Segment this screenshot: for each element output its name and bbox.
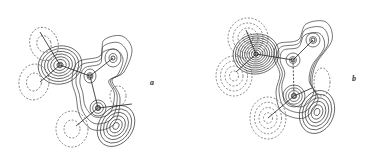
bond-line <box>40 32 60 65</box>
negative-contour <box>56 111 88 147</box>
panel-label-b: b <box>352 74 356 83</box>
bond-line <box>293 40 313 60</box>
negative-contour <box>314 68 330 96</box>
negative-contour <box>25 23 63 65</box>
negative-contour <box>230 71 239 81</box>
panel-label-a: a <box>150 78 154 87</box>
positive-contour <box>313 108 321 117</box>
panel-b-contour-map <box>216 18 340 139</box>
positive-contour <box>103 112 130 140</box>
positive-contour <box>301 94 332 129</box>
contour-figure <box>0 0 372 165</box>
negative-contour <box>64 120 80 138</box>
panel-a-contour-map <box>16 23 142 154</box>
positive-contour <box>107 117 125 136</box>
negative-contour <box>16 62 52 103</box>
positive-contour <box>112 121 121 130</box>
